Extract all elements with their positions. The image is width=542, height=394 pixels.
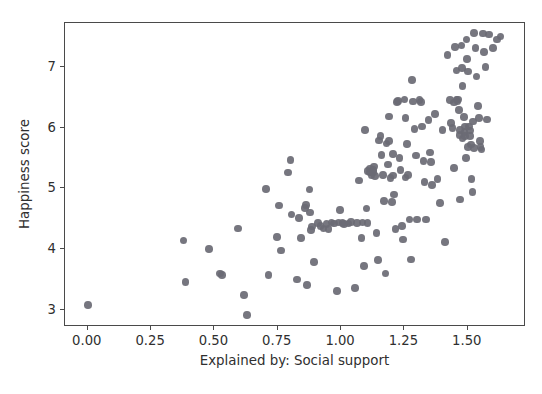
- y-tick-mark: [60, 187, 64, 188]
- y-tick-label: 7: [48, 58, 56, 73]
- scatter-points-layer: [65, 23, 524, 325]
- data-point: [399, 236, 407, 244]
- data-point: [456, 196, 464, 204]
- data-point: [497, 33, 505, 41]
- y-tick-label: 5: [48, 180, 56, 195]
- data-point: [469, 188, 477, 196]
- data-point: [297, 234, 305, 242]
- y-tick-mark: [60, 66, 64, 67]
- data-point: [422, 216, 430, 224]
- data-point: [412, 152, 420, 160]
- x-tick-label: 1.00: [325, 333, 354, 348]
- data-point: [469, 118, 477, 126]
- data-point: [240, 291, 248, 299]
- data-point: [355, 177, 363, 185]
- data-point: [306, 186, 314, 194]
- x-tick-label: 1.50: [452, 333, 481, 348]
- data-point: [470, 144, 478, 152]
- data-point: [459, 82, 467, 90]
- data-point: [434, 175, 442, 183]
- data-point: [398, 222, 406, 230]
- data-point: [411, 125, 419, 133]
- data-point: [388, 198, 396, 206]
- data-point: [397, 166, 405, 174]
- data-point: [402, 174, 410, 182]
- data-point: [462, 154, 470, 162]
- data-point: [458, 42, 466, 50]
- data-point: [418, 123, 426, 131]
- data-point: [472, 44, 480, 52]
- data-point: [483, 116, 491, 124]
- y-axis-label: Happiness score: [16, 22, 34, 326]
- data-point: [379, 171, 387, 179]
- data-point: [464, 68, 472, 76]
- y-tick-mark: [60, 309, 64, 310]
- data-point: [333, 287, 341, 295]
- data-point: [406, 216, 414, 224]
- data-point: [275, 202, 283, 210]
- data-point: [295, 214, 303, 222]
- data-point: [302, 201, 310, 209]
- data-point: [243, 311, 251, 319]
- data-point: [450, 164, 458, 172]
- data-point: [361, 126, 369, 134]
- data-point: [373, 229, 381, 237]
- data-point: [449, 124, 457, 132]
- data-point: [417, 98, 425, 106]
- data-point: [370, 168, 378, 176]
- data-point: [384, 161, 392, 169]
- data-point: [378, 151, 386, 159]
- data-point: [385, 113, 393, 121]
- y-tick-label: 3: [48, 301, 56, 316]
- data-point: [401, 96, 409, 104]
- data-point: [482, 63, 490, 71]
- x-tick-mark: [87, 326, 88, 330]
- x-tick-label: 0.00: [72, 333, 101, 348]
- data-point: [205, 245, 213, 253]
- x-tick-mark: [467, 326, 468, 330]
- y-tick-mark: [60, 248, 64, 249]
- x-tick-mark: [213, 326, 214, 330]
- data-point: [358, 234, 366, 242]
- data-point: [84, 301, 92, 309]
- data-point: [182, 278, 190, 286]
- data-point: [426, 149, 434, 157]
- data-point: [218, 271, 226, 279]
- data-point: [408, 76, 416, 84]
- data-point: [310, 258, 318, 266]
- data-point: [380, 197, 388, 205]
- data-point: [485, 31, 493, 39]
- data-point: [303, 281, 311, 289]
- scatter-chart-figure: 0.000.250.500.751.001.251.50 34567 Expla…: [0, 0, 542, 394]
- data-point: [468, 175, 476, 183]
- x-tick-label: 0.50: [199, 333, 228, 348]
- data-point: [382, 270, 390, 278]
- data-point: [180, 237, 188, 245]
- data-point: [478, 146, 486, 154]
- data-point: [473, 73, 481, 81]
- data-point: [444, 51, 452, 59]
- x-tick-mark: [340, 326, 341, 330]
- data-point: [463, 55, 471, 63]
- data-point: [439, 126, 447, 134]
- data-point: [389, 150, 397, 158]
- x-tick-mark: [403, 326, 404, 330]
- data-point: [262, 185, 270, 193]
- y-tick-mark: [60, 127, 64, 128]
- x-tick-mark: [277, 326, 278, 330]
- x-tick-mark: [150, 326, 151, 330]
- data-point: [420, 157, 428, 165]
- data-point: [427, 158, 435, 166]
- data-point: [461, 123, 469, 131]
- plot-area: [64, 22, 525, 326]
- data-point: [466, 132, 474, 140]
- data-point: [234, 225, 242, 233]
- data-point: [460, 113, 468, 121]
- data-point: [273, 233, 281, 241]
- data-point: [407, 256, 415, 264]
- data-point: [284, 169, 292, 177]
- data-point: [389, 172, 397, 180]
- data-point: [489, 44, 497, 52]
- data-point: [436, 199, 444, 207]
- data-point: [265, 271, 273, 279]
